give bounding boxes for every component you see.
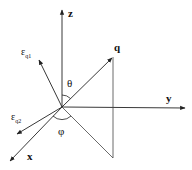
coordinate-diagram: z y x q εq1 εq2 θ φ xyxy=(0,0,192,170)
diagram-canvas xyxy=(0,0,192,170)
q-projection-line xyxy=(62,107,113,158)
theta-arc xyxy=(62,95,71,99)
phi-label: φ xyxy=(58,126,64,137)
eps-q1-label: εq1 xyxy=(21,47,31,59)
theta-label: θ xyxy=(67,78,72,89)
x-axis-label: x xyxy=(27,151,33,162)
eps-q2-subscript: q2 xyxy=(15,118,21,124)
y-axis-label: y xyxy=(166,93,172,104)
z-axis-label: z xyxy=(68,8,73,19)
q-vector-label: q xyxy=(114,42,120,53)
eps-q2-label: εq2 xyxy=(11,112,21,124)
y-axis xyxy=(62,107,185,108)
eps-q1-vector xyxy=(39,60,62,107)
eps-q1-subscript: q1 xyxy=(25,53,31,59)
phi-arc xyxy=(53,116,71,120)
